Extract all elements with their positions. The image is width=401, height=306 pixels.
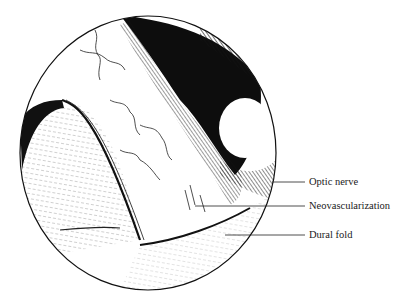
illustration (0, 0, 401, 306)
label-dural-fold: Dural fold (309, 229, 352, 241)
white-bulge (219, 98, 271, 158)
label-neovascularization: Neovascularization (309, 200, 390, 212)
endoscopic-view (0, 0, 401, 306)
label-optic-nerve: Optic nerve (309, 176, 358, 188)
